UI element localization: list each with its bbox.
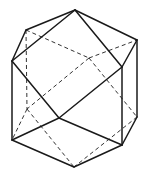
visible-edge-BR-LR (122, 117, 137, 145)
visible-edge-BL-B (12, 140, 74, 167)
visible-edge-T-L (12, 10, 75, 61)
hidden-edge-UL-X (26, 30, 89, 58)
visible-edges (12, 10, 137, 167)
visible-edge-C-BR (59, 118, 122, 145)
visible-edge-T-R (75, 10, 137, 40)
visible-edge-RF-C (59, 67, 122, 118)
visible-edge-L-C (12, 61, 59, 118)
visible-edge-T-UL (26, 10, 75, 30)
visible-edge-UL-L (12, 30, 26, 61)
visible-edge-R-RF (122, 40, 137, 67)
hidden-edge-Y-B (27, 109, 74, 167)
visible-edge-BL-C (12, 118, 59, 140)
hidden-edge-Y-BL (12, 109, 27, 140)
hidden-edge-UL-Y (26, 30, 27, 109)
polyhedron-diagram (0, 0, 149, 178)
hidden-edge-LR-B (74, 117, 137, 167)
visible-edge-T-RF (75, 10, 122, 67)
